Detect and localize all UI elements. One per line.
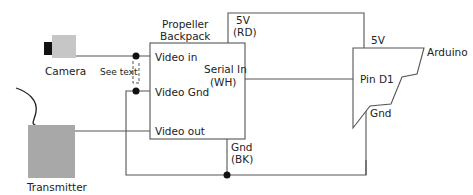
camera-body-icon xyxy=(52,35,76,58)
transmitter-label: Transmitter xyxy=(26,181,88,193)
antenna-icon xyxy=(16,88,37,126)
propeller-backpack: Propeller Backpack Video in Video Gnd Vi… xyxy=(150,14,257,165)
arduino-pin-gnd: Gnd xyxy=(370,107,391,119)
transmitter: Transmitter xyxy=(16,88,88,193)
pin-gnd-color: (BK) xyxy=(231,153,253,165)
junction-dot xyxy=(133,53,140,60)
transmitter-body-icon xyxy=(28,125,75,178)
pin-video-in: Video in xyxy=(155,51,197,63)
pin-5v-color: (RD) xyxy=(233,26,257,38)
pin-serial-in-color: (WH) xyxy=(210,76,236,88)
pin-gnd: Gnd xyxy=(231,141,252,153)
arduino-pin-5v: 5V xyxy=(371,34,386,46)
arduino-pin-d1: Pin D1 xyxy=(360,73,394,85)
pin-5v: 5V xyxy=(236,14,251,26)
see-text-note: See text xyxy=(100,67,138,77)
pin-serial-in: Serial In xyxy=(204,63,247,75)
wiring-diagram: Camera Transmitter Propeller Backpack Vi… xyxy=(0,0,473,195)
pin-video-out: Video out xyxy=(155,125,205,137)
arduino-label: Arduino xyxy=(427,46,468,58)
pin-video-gnd: Video Gnd xyxy=(155,86,209,98)
junction-dot xyxy=(133,88,140,95)
backpack-title-line1: Propeller xyxy=(162,18,209,30)
camera-lens-icon xyxy=(44,42,53,55)
camera-label: Camera xyxy=(45,65,86,77)
arduino: Arduino 5V Pin D1 Gnd xyxy=(353,34,468,128)
junction-dot xyxy=(224,172,231,179)
backpack-title-line2: Backpack xyxy=(160,30,211,42)
